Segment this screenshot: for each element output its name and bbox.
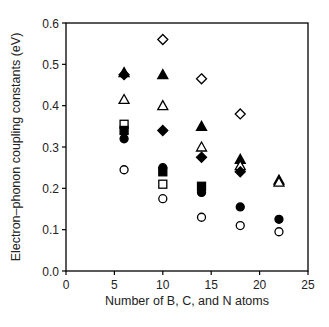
data-markers (119, 35, 284, 236)
x-axis: 0510152025 (63, 271, 315, 292)
open-triangle-marker (197, 142, 207, 151)
y-tick-label: 0.0 (42, 265, 59, 279)
y-axis-label: Electron–phonon coupling constants (eV) (9, 33, 23, 262)
x-axis-label: Number of B, C, and N atoms (105, 294, 269, 308)
open-square-marker (159, 180, 167, 188)
y-tick-label: 0.4 (42, 99, 59, 113)
plot-border (66, 23, 308, 271)
y-tick-label: 0.6 (42, 17, 59, 31)
filled-square-marker (120, 126, 128, 134)
open-diamond-marker (197, 74, 207, 84)
scatter-chart: 0.00.10.20.30.40.50.6 0510152025 Number … (0, 0, 329, 327)
open-circle-marker (120, 166, 128, 174)
filled-diamond-marker (158, 125, 168, 135)
y-tick-label: 0.1 (42, 223, 59, 237)
y-axis: 0.00.10.20.30.40.50.6 (42, 17, 66, 279)
open-circle-marker (275, 228, 283, 236)
x-tick-label: 5 (111, 278, 118, 292)
filled-triangle-marker (197, 121, 207, 130)
filled-circle-marker (159, 164, 167, 172)
filled-circle-marker (275, 215, 283, 223)
filled-diamond-marker (119, 70, 129, 80)
plot-frame (66, 23, 308, 271)
open-diamond-marker (235, 109, 245, 119)
filled-triangle-marker (158, 70, 168, 79)
open-circle-marker (159, 195, 167, 203)
open-circle-marker (198, 213, 206, 221)
x-tick-label: 10 (156, 278, 170, 292)
filled-circle-marker (236, 203, 244, 211)
x-tick-label: 25 (301, 278, 315, 292)
open-circle-marker (236, 222, 244, 230)
y-tick-label: 0.3 (42, 141, 59, 155)
y-tick-label: 0.2 (42, 182, 59, 196)
x-tick-label: 0 (63, 278, 70, 292)
open-triangle-marker (119, 94, 129, 103)
open-triangle-marker (158, 101, 168, 110)
filled-circle-marker (120, 135, 128, 143)
x-tick-label: 20 (253, 278, 267, 292)
y-tick-label: 0.5 (42, 58, 59, 72)
filled-diamond-marker (197, 152, 207, 162)
filled-circle-marker (198, 188, 206, 196)
x-tick-label: 15 (205, 278, 219, 292)
open-diamond-marker (158, 35, 168, 45)
